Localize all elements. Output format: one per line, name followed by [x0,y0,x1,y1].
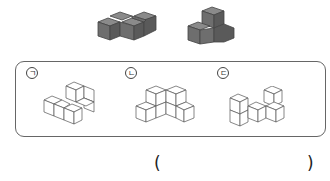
option-label-1: ㄱ [26,67,38,79]
answer-open-paren: ( [154,153,161,173]
given-shape-b [186,6,236,46]
option-figure-1 [40,78,106,128]
option-label-3: ㄷ [217,67,229,79]
answer-close-paren: ) [307,153,314,173]
option-figure-3 [228,86,294,132]
option-label-2: ㄴ [125,67,137,79]
option-figure-2 [134,80,196,130]
given-shape-a [94,10,166,44]
answer-blank[interactable] [170,153,310,173]
